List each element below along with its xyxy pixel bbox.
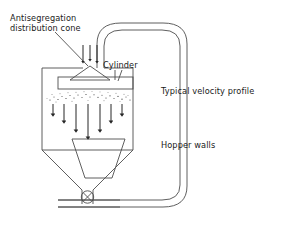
hopper-insert-cone xyxy=(72,139,125,178)
diagram-canvas xyxy=(0,0,283,225)
inlet-feed-arrows xyxy=(83,45,97,62)
label-hopper-walls: Hopper walls xyxy=(161,140,215,150)
crossed-circle-valve xyxy=(81,190,93,204)
label-antisegregation-line2: distribution cone xyxy=(10,23,81,33)
label-cylinder: Cylinder xyxy=(103,60,138,70)
cylinder-shroud xyxy=(58,77,133,89)
ground-support-line xyxy=(58,200,120,207)
label-antisegregation-distribution-cone: Antisegregation distribution cone xyxy=(10,13,81,33)
hopper-antisegregation-diagram: Antisegregation distribution cone Cylind… xyxy=(0,0,283,225)
velocity-profile-arrows xyxy=(53,104,122,138)
label-typical-velocity-profile: Typical velocity profile xyxy=(161,86,254,96)
label-antisegregation-line1: Antisegregation xyxy=(10,13,81,23)
particle-band xyxy=(47,91,131,102)
leader-line-cylinder xyxy=(115,70,122,81)
